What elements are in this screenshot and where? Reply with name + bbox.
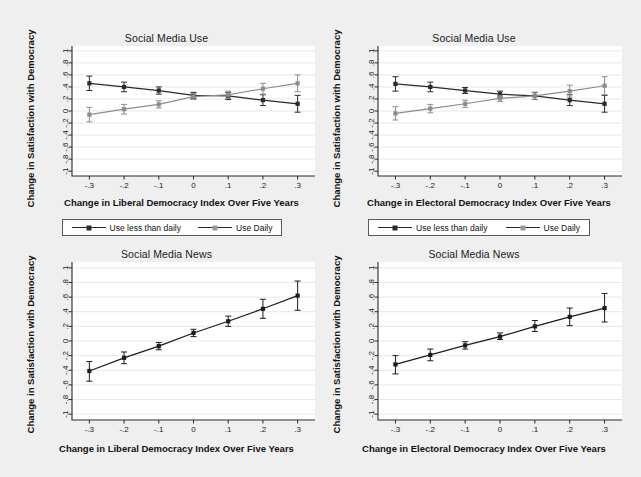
data-point-marker [157, 102, 161, 106]
y-tick-label: -.4 [367, 365, 376, 375]
legend-item-use-less-than-daily[interactable]: Use less than daily [72, 223, 181, 233]
x-tick-label: 0 [498, 425, 503, 434]
chart-svg: -1-.8-.6-.4-.20.2.4.6.81-.3-.2-.10.1.2.3 [364, 262, 622, 434]
data-point-marker [261, 98, 265, 102]
y-axis-label: Change in Satisfaction with Democracy [24, 254, 38, 434]
x-tick-label: .2 [566, 181, 573, 190]
data-point-marker [157, 344, 161, 348]
x-tick-label: -.2 [119, 181, 129, 190]
x-tick-label: -.3 [391, 425, 401, 434]
data-point-marker [568, 98, 572, 102]
chart-title: Social Media News [320, 248, 628, 260]
x-tick-label: -.3 [391, 181, 401, 190]
legend-item-use-daily[interactable]: Use Daily [506, 223, 580, 233]
chart-svg: -1-.8-.6-.4-.20.2.4.6.81-.3-.2-.10.1.2.3 [58, 262, 315, 434]
y-tick-label: -.8 [61, 394, 70, 404]
y-tick-label: .6 [61, 293, 70, 300]
chart-panel-bottom-left: Social Media News Change in Satisfaction… [14, 244, 319, 466]
y-tick-label: .4 [61, 83, 70, 90]
data-point-marker [122, 107, 126, 111]
x-tick-label: -.1 [460, 425, 470, 434]
data-point-marker [157, 88, 161, 92]
y-tick-label: -1 [61, 167, 70, 175]
y-tick-label: .8 [61, 59, 70, 66]
legend-top-left: Use less than daily Use Daily [62, 219, 282, 236]
data-point-marker [428, 85, 432, 89]
y-tick-label: -.2 [61, 118, 70, 128]
y-tick-label: 1 [61, 48, 70, 53]
x-tick-label: .3 [294, 425, 301, 434]
data-point-marker [87, 113, 91, 117]
data-point-marker [498, 96, 502, 100]
x-tick-label: -.1 [154, 181, 164, 190]
data-point-marker [393, 111, 397, 115]
x-axis-label: Change in Electoral Democracy Index Over… [340, 443, 628, 454]
data-point-marker [87, 81, 91, 85]
data-point-marker [87, 369, 91, 373]
y-tick-label: -.6 [367, 142, 376, 152]
y-tick-label: -.4 [367, 130, 376, 140]
x-tick-label: -.3 [85, 425, 95, 434]
x-tick-label: .1 [225, 181, 232, 190]
plot-area-bottom-left: -1-.8-.6-.4-.20.2.4.6.81-.3-.2-.10.1.2.3 [58, 262, 315, 434]
x-tick-label: -.1 [154, 425, 164, 434]
plot-area-bottom-right: -1-.8-.6-.4-.20.2.4.6.81-.3-.2-.10.1.2.3 [364, 262, 622, 434]
data-point-marker [463, 88, 467, 92]
chart-title: Social Media Use [14, 32, 319, 44]
data-point-marker [428, 353, 432, 357]
y-tick-label: .6 [367, 293, 376, 300]
y-tick-label: .4 [367, 308, 376, 315]
y-tick-label: .8 [367, 59, 376, 66]
data-point-marker [533, 324, 537, 328]
legend-item-use-daily[interactable]: Use Daily [198, 223, 272, 233]
data-point-marker [226, 319, 230, 323]
data-point-marker [191, 331, 195, 335]
chart-svg: -1-.8-.6-.4-.20.2.4.6.81-.3-.2-.10.1.2.3 [364, 46, 622, 190]
data-point-marker [393, 82, 397, 86]
legend-label: Use less than daily [416, 223, 487, 233]
legend-label: Use less than daily [110, 223, 181, 233]
legend-marker-light-icon [198, 223, 232, 232]
y-tick-label: -.4 [61, 365, 70, 375]
data-point-marker [226, 93, 230, 97]
y-axis-label: Change in Satisfaction with Democracy [330, 38, 344, 198]
x-tick-label: .2 [566, 425, 573, 434]
y-tick-label: .6 [367, 71, 376, 78]
x-tick-label: -.2 [119, 425, 129, 434]
x-tick-label: -.3 [85, 181, 95, 190]
y-tick-label: -1 [367, 167, 376, 175]
data-point-marker [463, 343, 467, 347]
data-point-marker [602, 306, 606, 310]
data-point-marker [191, 94, 195, 98]
x-tick-label: -.1 [460, 181, 470, 190]
x-tick-label: 0 [191, 425, 196, 434]
y-tick-label: .2 [367, 322, 376, 329]
x-tick-label: .1 [225, 425, 232, 434]
y-tick-label: .2 [367, 95, 376, 102]
x-tick-label: .1 [532, 425, 539, 434]
x-tick-label: .1 [532, 181, 539, 190]
y-tick-label: -.8 [367, 154, 376, 164]
data-point-marker [296, 102, 300, 106]
data-point-marker [463, 102, 467, 106]
y-tick-label: .8 [61, 279, 70, 286]
legend-top-right: Use less than daily Use Daily [368, 219, 590, 236]
y-tick-label: 1 [61, 265, 70, 270]
y-tick-label: -.2 [61, 350, 70, 360]
chart-panel-bottom-right: Social Media News Change in Satisfaction… [320, 244, 628, 466]
legend-label: Use Daily [236, 223, 272, 233]
y-tick-label: -1 [61, 410, 70, 418]
data-point-marker [602, 84, 606, 88]
y-tick-label: .2 [61, 95, 70, 102]
legend-item-use-less-than-daily[interactable]: Use less than daily [378, 223, 487, 233]
chart-title: Social Media Use [320, 32, 628, 44]
y-tick-label: 0 [61, 338, 70, 343]
data-point-marker [261, 307, 265, 311]
chart-title: Social Media News [14, 248, 319, 260]
x-tick-label: .2 [260, 425, 267, 434]
data-point-marker [602, 102, 606, 106]
y-tick-label: -.6 [61, 380, 70, 390]
data-point-marker [122, 85, 126, 89]
y-tick-label: .2 [61, 322, 70, 329]
x-tick-label: .3 [294, 181, 301, 190]
